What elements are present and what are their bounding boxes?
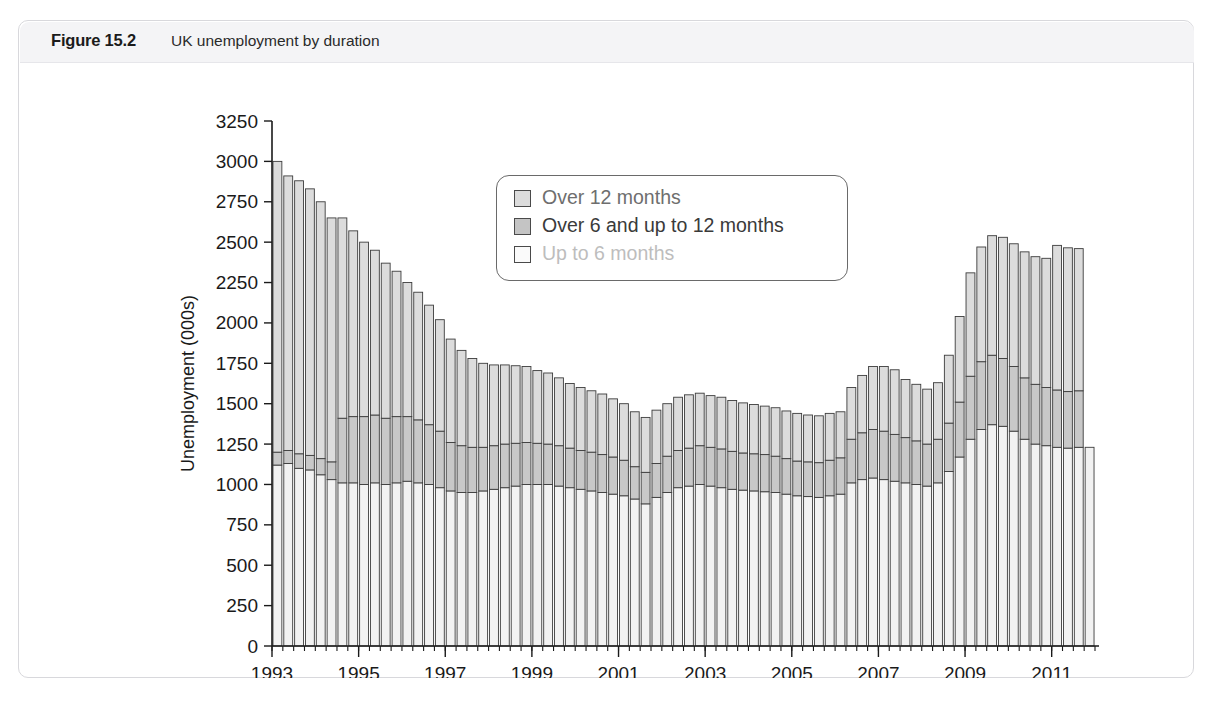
bar-segment [284, 463, 293, 646]
bar-segment [587, 452, 596, 491]
bar-segment [749, 454, 758, 491]
bar-segment [305, 189, 314, 456]
bar-segment [836, 412, 845, 458]
x-tick-label: 2003 [684, 663, 726, 678]
bar-segment [836, 458, 845, 494]
bar-segment [966, 273, 975, 376]
bar-segment [392, 417, 401, 483]
bar-segment [912, 484, 921, 646]
bar-segment [457, 446, 466, 493]
bar-segment [1042, 446, 1051, 646]
bar-segment [988, 425, 997, 646]
bar-segment [500, 444, 509, 488]
bar-segment [944, 423, 953, 471]
bar-segment [977, 247, 986, 362]
y-tick-label: 3250 [216, 111, 258, 132]
bar-segment [468, 358, 477, 447]
bar-segment [425, 484, 434, 646]
bar-segment [316, 459, 325, 475]
bar-segment [977, 362, 986, 430]
bar-segment [749, 405, 758, 454]
bar-segment [684, 395, 693, 448]
bar-segment [490, 489, 499, 646]
x-tick-label: 1999 [511, 663, 553, 678]
bar-segment [598, 493, 607, 646]
bar-segment [901, 379, 910, 437]
bar-segment [381, 484, 390, 646]
bar-segment [890, 481, 899, 646]
bar-segment [370, 250, 379, 415]
bar-segment [858, 480, 867, 646]
bar-segment [890, 370, 899, 435]
bar-segment [739, 403, 748, 453]
bar-segment [955, 316, 964, 402]
bar-segment [273, 452, 282, 465]
bar-segment [587, 391, 596, 452]
bar-segment [620, 496, 629, 646]
bar-segment [674, 488, 683, 646]
bar-segment [1074, 447, 1083, 646]
bar-segment [544, 373, 553, 444]
bar-segment [641, 504, 650, 646]
bar-segment [630, 467, 639, 499]
bar-segment [858, 433, 867, 480]
y-tick-label: 2250 [216, 272, 258, 293]
bar-segment [717, 449, 726, 488]
bar-segment [641, 472, 650, 504]
bar-segment [1053, 390, 1062, 447]
legend-label-over-6-up-to-12-months: Over 6 and up to 12 months [542, 214, 784, 237]
bar-segment [392, 483, 401, 646]
bar-segment [609, 399, 618, 457]
y-tick-label: 1750 [216, 353, 258, 374]
bar-segment [284, 451, 293, 464]
bar-segment [295, 181, 304, 454]
bar-segment [349, 483, 358, 646]
bar-segment [869, 478, 878, 646]
bar-segment [630, 412, 639, 467]
bar-segment [749, 491, 758, 646]
bar-segment [338, 218, 347, 418]
bar-segment [370, 483, 379, 646]
y-tick-label: 2750 [216, 191, 258, 212]
bar-segment [695, 484, 704, 646]
bar-segment [565, 448, 574, 488]
bar-segment [598, 394, 607, 455]
bar-segment [576, 388, 585, 451]
bar-segment [1053, 245, 1062, 390]
bar-segment [403, 417, 412, 482]
chart-legend: Over 12 months Over 6 and up to 12 month… [496, 175, 848, 281]
bar-segment [435, 431, 444, 488]
bar-segment [793, 496, 802, 646]
bar-segment [316, 202, 325, 459]
legend-swatch-over-6-up-to-12-months [514, 218, 531, 235]
bar-segment [360, 417, 369, 485]
y-tick-label: 250 [226, 595, 258, 616]
bar-segment [847, 483, 856, 646]
bar-segment [966, 376, 975, 439]
x-tick-label: 2001 [597, 663, 639, 678]
bar-segment [847, 439, 856, 483]
bar-segment [695, 393, 704, 446]
legend-swatch-over-12-months [514, 190, 531, 207]
y-tick-label: 750 [226, 514, 258, 535]
bar-segment [879, 431, 888, 479]
bar-segment [782, 494, 791, 646]
legend-swatch-up-to-6-months [514, 246, 531, 263]
bar-segment [576, 489, 585, 646]
bar-segment [392, 271, 401, 416]
bar-segment [565, 488, 574, 646]
y-tick-label: 500 [226, 555, 258, 576]
bar-segment [620, 404, 629, 461]
bar-segment [414, 292, 423, 420]
bar-segment [500, 488, 509, 646]
bar-segment [825, 413, 834, 460]
figure-number-label: Figure 15.2 [51, 31, 136, 50]
bar-segment [793, 461, 802, 496]
bar-segment [1063, 248, 1072, 392]
bar-segment [565, 384, 574, 449]
bar-segment [1031, 257, 1040, 385]
bar-segment [533, 484, 542, 646]
bar-segment [295, 454, 304, 469]
bar-segment [793, 413, 802, 461]
y-tick-label: 1500 [216, 393, 258, 414]
